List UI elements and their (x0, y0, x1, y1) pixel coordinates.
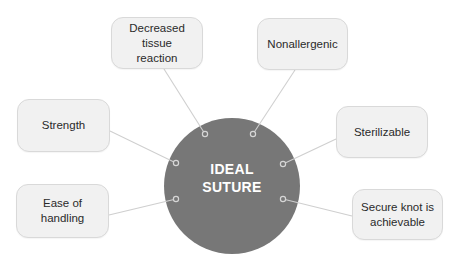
node-decreased-tissue-reaction: Decreased tissue reaction (111, 17, 203, 69)
hub-label-line1: IDEAL (164, 160, 300, 178)
anchor-dot-icon (250, 131, 255, 136)
node-label-line2: handling (41, 211, 84, 226)
hub-label: IDEAL SUTURE (164, 160, 300, 196)
node-label-line1: Sterilizable (354, 125, 410, 140)
node-ease-of-handling: Ease of handling (16, 184, 109, 238)
node-label-line1: Nonallergenic (267, 37, 337, 52)
node-nonallergenic: Nonallergenic (257, 18, 348, 70)
node-label-line2: reaction (118, 51, 196, 66)
connector-nonallergenic (253, 70, 295, 134)
ideal-suture-diagram: IDEAL SUTURE Decreased tissue reaction N… (0, 0, 454, 263)
node-label-line1: Strength (42, 118, 85, 133)
node-label-line2: achievable (361, 215, 434, 230)
connector-strength (110, 131, 176, 163)
connector-decreased-tissue-reaction (164, 69, 205, 134)
node-label-line1: Ease of (41, 196, 84, 211)
node-label-line1: Decreased tissue (118, 21, 196, 51)
anchor-dot-icon (173, 196, 178, 201)
anchor-dot-icon (202, 131, 207, 136)
node-strength: Strength (17, 99, 110, 152)
node-sterilizable: Sterilizable (336, 106, 428, 158)
node-label-line1: Secure knot is (361, 200, 434, 215)
node-secure-knot: Secure knot is achievable (352, 189, 443, 240)
hub-label-line2: SUTURE (164, 178, 300, 196)
anchor-dot-icon (280, 196, 285, 201)
connector-ease-of-handling (109, 199, 176, 215)
